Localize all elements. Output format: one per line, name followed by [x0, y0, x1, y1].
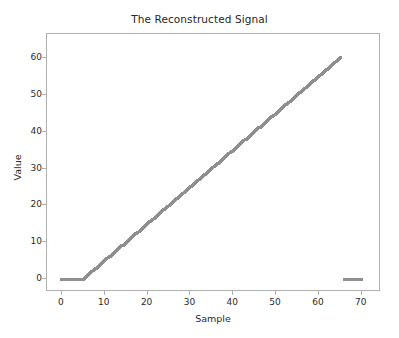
- data-point-marker: [360, 278, 363, 281]
- y-tick-mark: [42, 168, 46, 169]
- figure-canvas: The Reconstructed Signal 0102030405060 0…: [0, 0, 399, 338]
- x-tick-label: 0: [41, 297, 81, 307]
- x-tick-mark: [361, 291, 362, 295]
- x-tick-label: 50: [255, 297, 295, 307]
- x-tick-label: 30: [169, 297, 209, 307]
- plot-data-area: [47, 34, 379, 290]
- y-tick-label: 50: [6, 89, 42, 99]
- plot-axes-frame: [46, 33, 380, 291]
- y-tick-label: 20: [6, 199, 42, 209]
- x-tick-label: 20: [127, 297, 167, 307]
- y-tick-mark: [42, 278, 46, 279]
- x-tick-label: 40: [212, 297, 252, 307]
- y-axis-label: Value: [12, 138, 23, 198]
- y-tick-mark: [42, 94, 46, 95]
- x-tick-mark: [189, 291, 190, 295]
- y-tick-mark: [42, 57, 46, 58]
- x-tick-label: 60: [298, 297, 338, 307]
- x-tick-label: 70: [341, 297, 381, 307]
- y-tick-mark: [42, 131, 46, 132]
- y-tick-label: 40: [6, 126, 42, 136]
- data-point-marker: [339, 56, 342, 59]
- x-tick-mark: [232, 291, 233, 295]
- y-tick-mark: [42, 204, 46, 205]
- x-tick-mark: [147, 291, 148, 295]
- x-axis-label: Sample: [46, 313, 380, 324]
- x-tick-label: 10: [84, 297, 124, 307]
- x-tick-mark: [318, 291, 319, 295]
- x-tick-mark: [275, 291, 276, 295]
- chart-title: The Reconstructed Signal: [0, 13, 399, 25]
- y-tick-label: 10: [6, 236, 42, 246]
- y-tick-label: 60: [6, 52, 42, 62]
- x-tick-mark: [104, 291, 105, 295]
- y-tick-label: 0: [6, 273, 42, 283]
- y-tick-mark: [42, 241, 46, 242]
- x-tick-mark: [61, 291, 62, 295]
